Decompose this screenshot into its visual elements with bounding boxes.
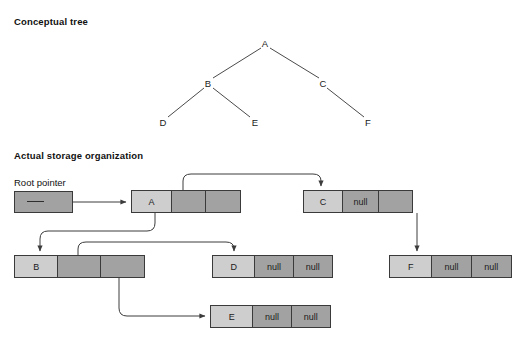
- tree-node-d: D: [160, 117, 167, 128]
- tree-node-e: E: [252, 117, 258, 128]
- record-b-left-pointer: [58, 256, 100, 277]
- tree-node-a: A: [262, 38, 268, 49]
- tree-node-b: B: [205, 78, 211, 89]
- record-d-right-pointer: null: [294, 256, 332, 277]
- edge-a-c: [270, 48, 319, 78]
- root-pointer-stub: [27, 201, 44, 202]
- record-c-data: C: [304, 191, 343, 212]
- record-d-data: D: [213, 256, 255, 277]
- figure-canvas: Conceptual tree A B C D E F Actual stora…: [0, 0, 527, 340]
- conceptual-tree-title: Conceptual tree: [14, 16, 88, 27]
- record-a: A: [131, 190, 241, 213]
- record-a-right-pointer: [206, 191, 240, 212]
- tree-node-c: C: [320, 78, 327, 89]
- record-b-right-pointer: [101, 256, 144, 277]
- record-f-right-pointer: null: [472, 256, 511, 277]
- record-c-left-pointer: null: [343, 191, 379, 212]
- record-f: F null null: [389, 255, 512, 278]
- record-f-left-pointer: null: [432, 256, 471, 277]
- record-e: E null null: [210, 305, 331, 328]
- storage-organization-title: Actual storage organization: [14, 150, 143, 161]
- edge-c-f: [327, 88, 364, 117]
- record-c: C null: [303, 190, 413, 213]
- record-e-data: E: [211, 306, 253, 327]
- root-pointer-label: Root pointer: [14, 177, 66, 188]
- edge-b-d: [168, 88, 204, 117]
- record-d-left-pointer: null: [255, 256, 293, 277]
- record-e-left-pointer: null: [253, 306, 291, 327]
- record-f-data: F: [390, 256, 432, 277]
- record-c-right-pointer: [379, 191, 412, 212]
- record-b: B: [14, 255, 145, 278]
- arrow-b-right-to-e: [119, 277, 205, 316]
- record-e-right-pointer: null: [292, 306, 330, 327]
- record-a-data: A: [132, 191, 172, 212]
- edge-a-b: [213, 48, 261, 78]
- arrow-a-left-to-b: [40, 212, 155, 251]
- root-pointer-box: [14, 191, 73, 213]
- storage-pointer-arrows: [0, 0, 527, 340]
- record-a-left-pointer: [172, 191, 206, 212]
- tree-node-f: F: [365, 117, 371, 128]
- edge-b-e: [213, 88, 250, 117]
- record-d: D null null: [212, 255, 333, 278]
- record-b-data: B: [15, 256, 58, 277]
- conceptual-tree-edges: [0, 0, 527, 340]
